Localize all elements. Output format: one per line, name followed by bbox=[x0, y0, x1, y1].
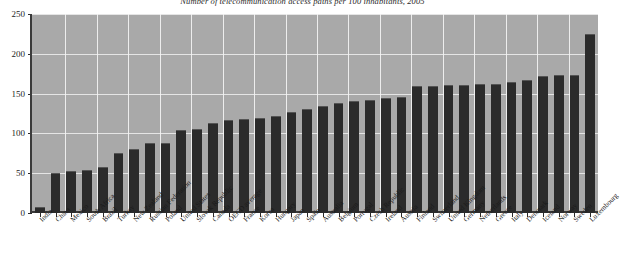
y-tick-label: 100 bbox=[12, 128, 26, 138]
bar-slot bbox=[491, 14, 501, 213]
bar-slot bbox=[82, 14, 92, 213]
bar bbox=[554, 75, 564, 214]
bars-layer bbox=[32, 14, 598, 213]
bar bbox=[349, 101, 359, 213]
bar bbox=[302, 109, 312, 213]
bar bbox=[491, 84, 501, 213]
bar-slot bbox=[239, 14, 249, 213]
bar bbox=[585, 34, 595, 213]
bar bbox=[412, 86, 422, 213]
bar bbox=[318, 106, 328, 213]
bar-slot bbox=[570, 14, 580, 213]
x-axis: IndiaChinaMexicoSouth AfricaBrazilTurkey… bbox=[32, 213, 598, 280]
bar-slot bbox=[397, 14, 407, 213]
bar bbox=[176, 130, 186, 213]
bar-slot bbox=[255, 14, 265, 213]
bar-slot bbox=[428, 14, 438, 213]
bar-slot bbox=[522, 14, 532, 213]
bar-slot bbox=[459, 14, 469, 213]
bar bbox=[459, 85, 469, 213]
bar-slot bbox=[365, 14, 375, 213]
bar-slot bbox=[161, 14, 171, 213]
bar-slot bbox=[208, 14, 218, 213]
y-axis: 050100150200250 bbox=[0, 0, 30, 213]
bar bbox=[428, 86, 438, 213]
bar-slot bbox=[35, 14, 45, 213]
bar bbox=[271, 116, 281, 213]
bar-slot bbox=[192, 14, 202, 213]
bar-slot bbox=[507, 14, 517, 213]
bar-slot bbox=[145, 14, 155, 213]
bar bbox=[507, 82, 517, 213]
bar-slot bbox=[271, 14, 281, 213]
bar bbox=[334, 103, 344, 213]
bar-slot bbox=[444, 14, 454, 213]
y-tick-label: 200 bbox=[12, 49, 26, 59]
y-tick-label: 0 bbox=[21, 208, 26, 218]
bar-slot bbox=[66, 14, 76, 213]
y-tick-label: 250 bbox=[12, 9, 26, 19]
bar-slot bbox=[129, 14, 139, 213]
bar-slot bbox=[412, 14, 422, 213]
bar bbox=[522, 80, 532, 213]
y-tick-label: 50 bbox=[16, 168, 25, 178]
bar-slot bbox=[554, 14, 564, 213]
bar bbox=[538, 76, 548, 213]
bar-slot bbox=[318, 14, 328, 213]
y-tick-label: 150 bbox=[12, 89, 26, 99]
bar bbox=[570, 75, 580, 214]
bar bbox=[444, 85, 454, 213]
bar-slot bbox=[98, 14, 108, 213]
bar-slot bbox=[287, 14, 297, 213]
bar-slot bbox=[349, 14, 359, 213]
bar bbox=[114, 153, 124, 213]
bar-slot bbox=[114, 14, 124, 213]
chart-title: Number of telecommunication access paths… bbox=[0, 0, 605, 6]
bar-slot bbox=[51, 14, 61, 213]
bar-slot bbox=[585, 14, 595, 213]
bar bbox=[51, 173, 61, 213]
bar-slot bbox=[381, 14, 391, 213]
bar-slot bbox=[334, 14, 344, 213]
bar-slot bbox=[538, 14, 548, 213]
bar bbox=[287, 112, 297, 213]
bar-slot bbox=[302, 14, 312, 213]
bar bbox=[365, 100, 375, 213]
